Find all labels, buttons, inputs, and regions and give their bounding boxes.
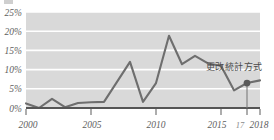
x-axis-labels: 2000 2005 2010 2015 17 2018	[19, 120, 269, 130]
y-tick-label-20: 20%	[5, 27, 23, 37]
x-axis-ticks	[26, 109, 260, 115]
x-tick-label-2015: 2015	[208, 120, 227, 130]
y-tick-label-10: 10%	[5, 65, 23, 75]
y-tick-label-0: 0%	[9, 104, 22, 114]
line-chart: 25% 20% 15% 10% 5% 0% 更改統計方式 2000	[0, 0, 274, 140]
x-tick-label-2018: 2018	[250, 120, 269, 130]
corner-artifact	[4, 0, 13, 4]
y-axis-labels: 25% 20% 15% 10% 5% 0%	[5, 8, 23, 114]
annotation-marker-dot	[244, 80, 251, 87]
x-tick-label-2010: 2010	[147, 120, 166, 130]
y-tick-label-5: 5%	[9, 84, 22, 94]
x-tick-label-2000: 2000	[19, 120, 38, 130]
x-tick-label-17: 17	[236, 120, 245, 130]
x-tick-label-2005: 2005	[83, 120, 102, 130]
chart-container: 25% 20% 15% 10% 5% 0% 更改統計方式 2000	[0, 0, 274, 140]
plot-area-background	[26, 12, 260, 108]
y-tick-label-25: 25%	[5, 8, 23, 18]
annotation-label: 更改統計方式	[206, 61, 262, 72]
y-tick-label-15: 15%	[5, 46, 23, 56]
